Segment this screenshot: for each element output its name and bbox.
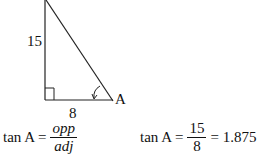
side-opposite-label: 15 <box>27 34 42 49</box>
numerator: opp <box>50 120 77 138</box>
angle-arc <box>94 86 100 98</box>
formula-result: = 1.875 <box>210 129 256 146</box>
denominator: 8 <box>193 138 201 155</box>
formula-lhs: tan A = <box>140 129 183 146</box>
tan-value-formula: tan A = 15 8 = 1.875 <box>140 120 256 155</box>
angle-label: A <box>115 92 126 107</box>
side-adjacent-label: 8 <box>69 106 77 121</box>
numerator: 15 <box>187 120 206 138</box>
denominator: adj <box>54 138 73 155</box>
formula-lhs: tan A = <box>3 129 46 146</box>
fraction: 15 8 <box>187 120 206 155</box>
fraction: opp adj <box>50 120 77 155</box>
right-angle-marker <box>45 88 54 100</box>
tan-definition-formula: tan A = opp adj <box>3 120 81 155</box>
